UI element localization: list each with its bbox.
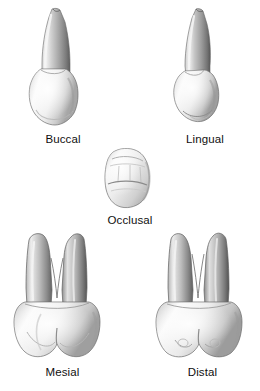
mesial-buccal-root [26, 234, 52, 306]
buccal-crown-highlight [29, 69, 78, 125]
tooth-views-figure: Buccal [0, 0, 260, 391]
view-label-mesial: Mesial [5, 366, 120, 378]
view-mesial: Mesial [5, 228, 120, 363]
mesial-cusp-groove [56, 328, 57, 345]
view-buccal: Buccal [8, 6, 118, 131]
mesial-root-furcation [51, 258, 63, 298]
distal-root-furcation [192, 254, 204, 298]
mesial-tooth-illustration [5, 228, 120, 363]
lingual-crown-highlight [174, 70, 219, 122]
distal-cusp-groove [198, 329, 199, 345]
distal-buccal-root [168, 234, 193, 306]
occlusal-tooth-illustration [85, 146, 175, 216]
view-distal: Distal [145, 228, 260, 363]
view-lingual: Lingual [150, 6, 260, 131]
view-label-buccal: Buccal [8, 133, 118, 145]
view-occlusal: Occlusal [85, 146, 175, 216]
distal-tooth-illustration [145, 228, 260, 363]
view-label-occlusal: Occlusal [85, 214, 175, 226]
lingual-tooth-illustration [150, 6, 260, 131]
buccal-tooth-illustration [8, 6, 118, 131]
view-label-lingual: Lingual [150, 133, 260, 145]
view-label-distal: Distal [145, 366, 260, 378]
